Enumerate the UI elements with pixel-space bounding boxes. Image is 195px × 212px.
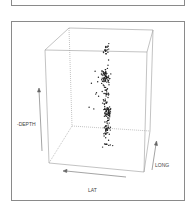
depth-axis-arrow bbox=[39, 90, 42, 151]
scatter3d-plot: -DEPTH LONG LAT bbox=[0, 0, 195, 212]
bounding-box bbox=[45, 28, 153, 172]
lat-axis-arrow bbox=[66, 171, 126, 177]
data-points bbox=[88, 43, 113, 148]
lat-axis-label: LAT bbox=[88, 187, 97, 193]
long-axis-label: LONG bbox=[155, 162, 169, 168]
depth-axis-label: -DEPTH bbox=[17, 121, 36, 127]
